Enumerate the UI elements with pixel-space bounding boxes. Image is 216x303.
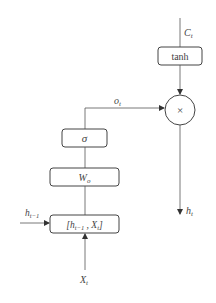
input-x-label: Xt <box>79 274 89 287</box>
cell-state-input: Ct <box>180 18 194 47</box>
prev-hidden-input: ht−1 <box>20 208 49 223</box>
hidden-output: ht <box>180 125 194 218</box>
tanh-label: tanh <box>171 51 188 62</box>
input-x: Xt <box>79 234 89 287</box>
cell-state-label: Ct <box>184 27 194 40</box>
lstm-output-gate-diagram: Ct tanh × ot σ Wo [ht−1 , Xt] ht−1 <box>0 0 216 303</box>
multiply-node: × <box>165 95 195 125</box>
gate-output-label: ot <box>114 95 122 108</box>
weight-node: Wo <box>50 168 119 186</box>
prev-hidden-label: ht−1 <box>25 208 39 219</box>
hidden-output-label: ht <box>186 205 194 218</box>
sigmoid-label: σ <box>82 132 88 144</box>
gate-output-edge: ot <box>85 95 164 129</box>
concat-node: [ht−1 , Xt] <box>50 215 119 233</box>
tanh-node: tanh <box>158 47 202 65</box>
sigmoid-node: σ <box>62 129 107 147</box>
multiply-symbol: × <box>177 104 183 116</box>
